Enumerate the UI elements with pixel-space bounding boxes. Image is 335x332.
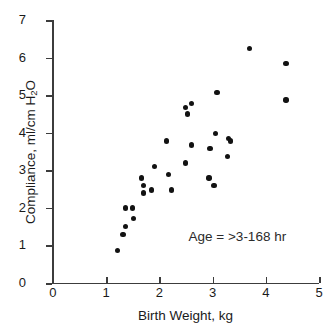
y-tick-3 [46, 170, 52, 172]
data-point [247, 46, 252, 51]
x-tick-3 [213, 277, 215, 283]
x-tick-0 [53, 277, 55, 283]
data-point [189, 101, 194, 106]
data-point [207, 146, 212, 151]
data-point [130, 205, 135, 210]
data-point [228, 138, 233, 143]
x-tick-label-3: 3 [198, 286, 228, 299]
x-tick-4 [266, 277, 268, 283]
y-tick-7 [46, 20, 52, 22]
y-axis-title-pre: Compliance, ml/cm H [23, 96, 38, 224]
y-tick-6 [46, 58, 52, 60]
y-tick-label-7: 7 [0, 13, 26, 26]
data-point [183, 105, 188, 110]
data-point [185, 111, 190, 116]
x-axis-title: Birth Weight, kg [52, 308, 319, 323]
x-axis-line [52, 283, 319, 285]
data-point [283, 61, 288, 66]
data-point [123, 224, 128, 229]
data-point [141, 183, 146, 188]
y-axis-title-subscript: 2 [28, 91, 39, 96]
x-tick-1 [106, 277, 108, 283]
y-tick-4 [46, 133, 52, 135]
x-tick-label-5: 5 [304, 286, 334, 299]
data-point [213, 131, 218, 136]
data-point [123, 205, 128, 210]
data-point [214, 90, 219, 95]
y-tick-5 [46, 95, 52, 97]
y-tick-1 [46, 245, 52, 247]
y-tick-2 [46, 208, 52, 210]
y-axis-title: Compliance, ml/cm H2O [23, 37, 39, 267]
y-axis-title-post: O [23, 80, 38, 91]
x-tick-label-1: 1 [91, 286, 121, 299]
data-point [225, 154, 230, 159]
data-point [120, 232, 125, 237]
x-tick-2 [159, 277, 161, 283]
data-point [283, 97, 288, 102]
data-point [115, 248, 120, 253]
x-tick-label-0: 0 [38, 286, 68, 299]
data-point [164, 138, 169, 143]
chart-annotation: Age = >3-168 hr [189, 229, 287, 244]
y-axis-line [52, 20, 54, 284]
x-tick-label-4: 4 [251, 286, 281, 299]
data-point [189, 142, 194, 147]
data-point [211, 183, 216, 188]
data-point [131, 216, 136, 221]
data-point [166, 172, 171, 177]
x-tick-5 [319, 277, 321, 283]
data-point [141, 190, 146, 195]
data-point [152, 164, 157, 169]
data-point [149, 187, 154, 192]
data-point [139, 175, 144, 180]
x-tick-label-2: 2 [144, 286, 174, 299]
scatter-chart-figure: 01234567012345 Birth Weight, kg Complian… [0, 0, 335, 332]
y-tick-label-0: 0 [0, 276, 26, 289]
data-point [169, 187, 174, 192]
data-point [183, 160, 188, 165]
data-point [206, 175, 211, 180]
